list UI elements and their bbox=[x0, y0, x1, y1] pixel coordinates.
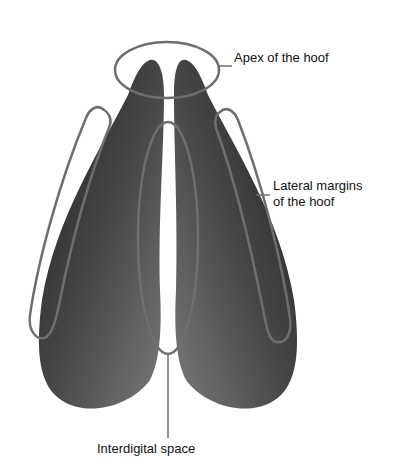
left-claw bbox=[39, 60, 164, 409]
label-apex: Apex of the hoof bbox=[234, 50, 329, 66]
hoof-diagram bbox=[0, 0, 401, 472]
label-lateral-margins: Lateral margins of the hoof bbox=[273, 178, 363, 210]
right-claw bbox=[174, 60, 297, 409]
apex-outline bbox=[115, 42, 219, 98]
label-lateral-line2: of the hoof bbox=[273, 194, 363, 210]
label-lateral-line1: Lateral margins bbox=[273, 178, 363, 194]
label-interdigital: Interdigital space bbox=[97, 441, 195, 457]
